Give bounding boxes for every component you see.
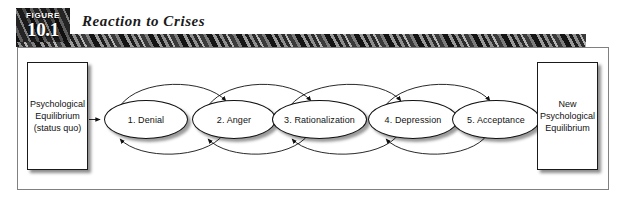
stage-label: 5. Acceptance	[467, 115, 525, 125]
end-state-label: New Psychological Equilibrium	[540, 98, 595, 134]
stage-ellipse-acceptance[interactable]: 5. Acceptance	[452, 100, 540, 139]
stage-ellipse-rationalization[interactable]: 3. Rationalization	[272, 100, 367, 139]
stage-label: 4. Depression	[385, 115, 442, 125]
stage-ellipse-denial[interactable]: 1. Denial	[104, 100, 188, 139]
end-state-box[interactable]: New Psychological Equilibrium	[537, 62, 598, 170]
start-state-box[interactable]: Psychological Equilibrium (status quo)	[27, 62, 88, 170]
stage-ellipse-anger[interactable]: 2. Anger	[192, 100, 276, 139]
figure-root: FIGURE 10.1 Reaction to Crises	[0, 0, 628, 207]
stage-label: 1. Denial	[128, 115, 164, 125]
stage-ellipse-depression[interactable]: 4. Depression	[368, 100, 458, 139]
stage-label: 2. Anger	[217, 115, 251, 125]
stage-label: 3. Rationalization	[284, 115, 355, 125]
start-state-label: Psychological Equilibrium (status quo)	[30, 98, 85, 134]
